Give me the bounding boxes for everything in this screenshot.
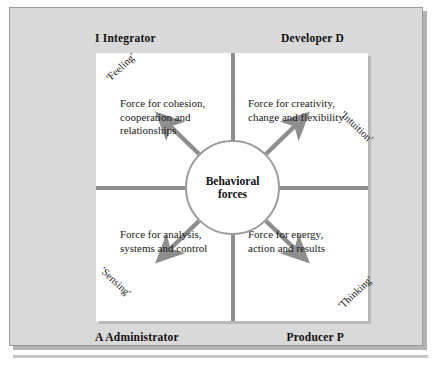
- hub-circle: Behavioral forces: [185, 140, 280, 235]
- quadrant-text-integrator: Force for cohesion, cooperation and rela…: [120, 97, 238, 138]
- pole-label-producer: Producer P: [287, 331, 344, 343]
- quadrant-text-producer: Force for energy, action and results: [248, 228, 360, 255]
- function-label-sensing: 'Sensing': [98, 265, 133, 298]
- function-label-thinking: 'Thinking': [336, 274, 374, 311]
- page-rule: [13, 355, 428, 358]
- quadrant-canvas: Behavioral forces Force for cohesion, co…: [96, 53, 368, 321]
- pole-label-integrator: I Integrator: [95, 32, 156, 44]
- function-label-feeling: 'Feeling': [104, 51, 137, 83]
- arrow-to-developer: [266, 124, 297, 154]
- pole-label-developer: Developer D: [281, 32, 344, 44]
- hub-label: Behavioral forces: [206, 175, 260, 201]
- diagram-plate: I Integrator Developer D A Administrator…: [9, 7, 423, 346]
- pole-label-administrator: A Administrator: [95, 331, 179, 343]
- figure-root: I Integrator Developer D A Administrator…: [0, 0, 436, 372]
